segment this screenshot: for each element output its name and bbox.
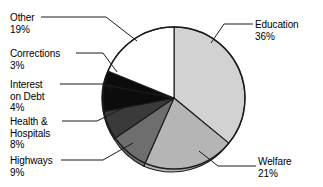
slice-label-health-hospitals: Health & Hospitals 8% [10,116,50,151]
slice-label-other: Other 19% [10,12,35,35]
slice-label-other-value: 19% [10,24,35,36]
pie-chart-figure: Other 19% Corrections 3% Interest on Deb… [0,0,323,187]
slice-label-education: Education 36% [255,19,299,42]
slice-label-interest-on-debt-value: 4% [10,102,44,114]
slice-label-highways-value: 9% [10,167,53,179]
leader-line-education [211,24,253,43]
slice-label-interest-on-debt-name1: Interest [10,79,44,91]
slice-label-interest-on-debt: Interest on Debt 4% [10,79,44,114]
slice-label-health-hospitals-value: 8% [10,139,50,151]
slice-label-corrections: Corrections 3% [10,48,60,71]
slice-label-corrections-name: Corrections [10,48,60,60]
slice-label-highways-name: Highways [10,155,53,167]
slice-label-health-hospitals-name1: Health & [10,116,50,128]
slice-label-welfare-value: 21% [258,168,292,180]
slice-label-other-name: Other [10,12,35,24]
slice-label-interest-on-debt-name2: on Debt [10,91,44,103]
slice-label-welfare-name: Welfare [258,156,292,168]
slice-label-education-value: 36% [255,31,299,43]
slice-label-highways: Highways 9% [10,155,53,178]
slice-label-corrections-value: 3% [10,60,60,72]
slice-label-education-name: Education [255,19,299,31]
leader-line-other [41,17,137,41]
slice-label-health-hospitals-name2: Hospitals [10,128,50,140]
slice-label-welfare: Welfare 21% [258,156,292,179]
